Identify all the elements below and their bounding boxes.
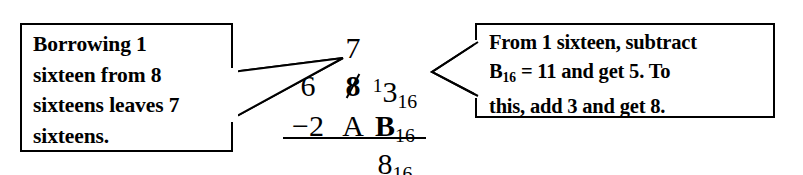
callout-right-line-1: From 1 sixteen, subtract	[489, 28, 697, 57]
callout-right-b-symbol: B	[489, 60, 502, 82]
tail-right-mask	[474, 40, 490, 98]
callout-left-pointer-tail	[225, 28, 345, 118]
callout-right-line-2-rest: = 11 and get 5. To	[516, 60, 670, 82]
callout-left-line-4: sixteens.	[33, 121, 179, 152]
callout-right-b-subscript: 16	[502, 70, 516, 85]
tail-left-mask	[225, 68, 239, 122]
hex-subtraction-figure: Borrowing 1 sixteen from 8 sixteens leav…	[0, 0, 803, 175]
answer-rule-line	[283, 137, 426, 139]
subtrahend-base-subscript: 16	[395, 124, 415, 146]
tail-left-outline	[233, 58, 343, 118]
callout-left-line-3: sixteens leaves 7	[33, 90, 179, 121]
answer-glyph: 8	[378, 147, 393, 175]
callout-right-line-2: B16 = 11 and get 5. To	[489, 57, 697, 92]
borrow-superscript-one: 1	[373, 75, 383, 96]
tail-right-shape	[432, 42, 478, 96]
callout-left-line-1: Borrowing 1	[33, 29, 179, 60]
minuend-ones-glyph: 3	[382, 75, 397, 108]
crossed-out-eight: 8	[346, 66, 361, 106]
callout-left-text: Borrowing 1 sixteen from 8 sixteens leav…	[33, 29, 179, 151]
callout-right-line-3: this, add 3 and get 8.	[489, 92, 697, 121]
callout-right-pointer-tail	[430, 36, 490, 102]
callout-left-line-2: sixteen from 8	[33, 60, 179, 91]
callout-right-text: From 1 sixteen, subtract B16 = 11 and ge…	[489, 28, 697, 121]
callout-box-left: Borrowing 1 sixteen from 8 sixteens leav…	[20, 23, 233, 152]
answer-value: 816	[372, 144, 418, 175]
callout-box-right: From 1 sixteen, subtract B16 = 11 and ge…	[475, 23, 775, 118]
answer-base-subscript: 16	[393, 162, 413, 175]
